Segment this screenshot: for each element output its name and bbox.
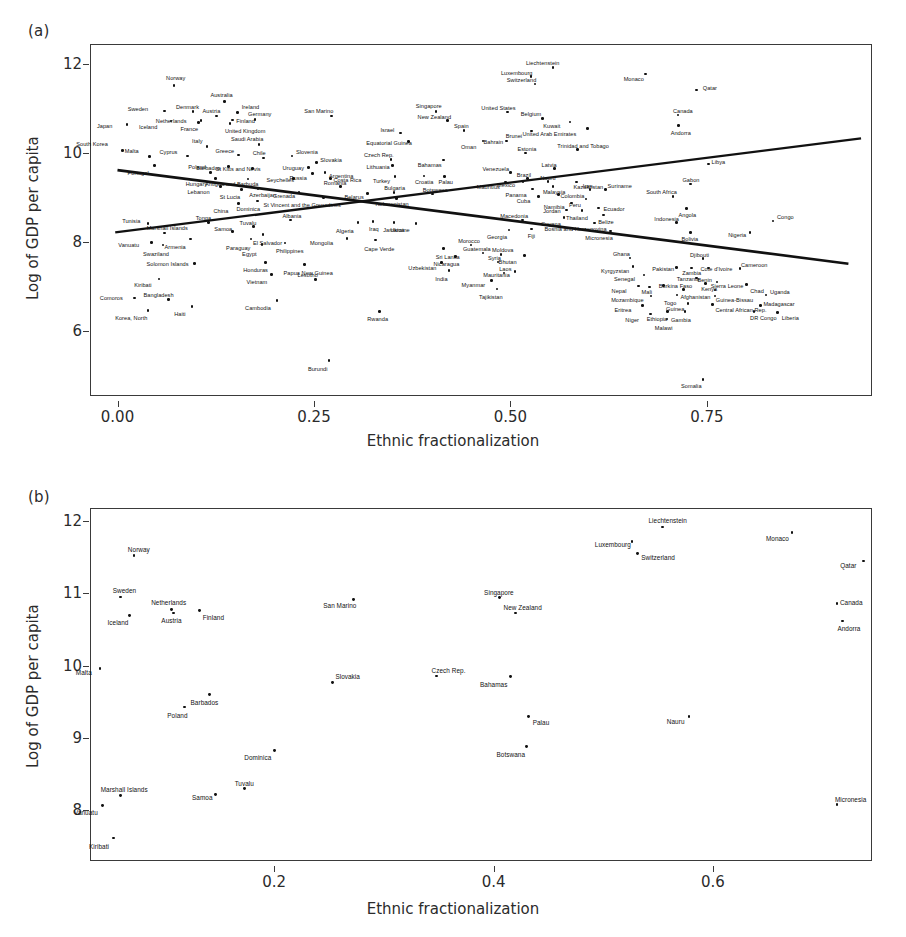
point-label: Marshall Islands bbox=[147, 226, 188, 232]
point-label: Germany bbox=[248, 112, 271, 118]
x-tick-mark bbox=[274, 866, 275, 872]
data-point bbox=[440, 261, 443, 264]
data-point bbox=[303, 263, 306, 266]
point-label: France bbox=[180, 127, 198, 133]
point-label: Norway bbox=[128, 547, 150, 553]
point-label: Congo bbox=[777, 215, 794, 221]
data-point bbox=[352, 598, 355, 601]
point-label: San Marino bbox=[323, 603, 356, 609]
point-label: Nicaragua bbox=[433, 262, 459, 268]
point-label: Tajikistan bbox=[479, 295, 503, 301]
x-tick-mark bbox=[494, 866, 495, 872]
data-point bbox=[537, 195, 540, 198]
point-label: Iraq bbox=[369, 227, 379, 233]
point-label: United Kingdom bbox=[225, 129, 266, 135]
point-label: Comoros bbox=[100, 296, 123, 302]
point-label: Cyprus bbox=[159, 150, 177, 156]
data-point bbox=[541, 117, 544, 120]
x-tick-0.50: 0.50 bbox=[480, 408, 540, 426]
point-label: Equatorial Guinea bbox=[366, 141, 412, 147]
data-point bbox=[557, 193, 560, 196]
point-label: Bosnia and Herzegovina bbox=[545, 227, 607, 233]
data-point bbox=[311, 172, 314, 175]
point-label: Kyrgyzstan bbox=[601, 269, 629, 275]
x-tick-0.2: 0.2 bbox=[244, 873, 304, 891]
x-tick-0.75: 0.75 bbox=[677, 408, 737, 426]
data-point bbox=[307, 166, 310, 169]
point-label: Denmark bbox=[176, 105, 199, 111]
data-point bbox=[597, 207, 600, 210]
data-point bbox=[776, 311, 779, 314]
point-label: Andorra bbox=[837, 626, 860, 632]
data-point bbox=[148, 155, 151, 158]
point-label: Cambodia bbox=[245, 306, 271, 312]
point-label: Suriname bbox=[608, 184, 632, 190]
panel-a-x-axis-label: Ethnic fractionalization bbox=[0, 432, 906, 450]
data-point bbox=[229, 122, 232, 125]
point-label: Monaco bbox=[766, 536, 789, 542]
point-label: Palau bbox=[438, 180, 453, 186]
data-point bbox=[395, 197, 398, 200]
point-label: Mauritania bbox=[483, 273, 510, 279]
point-label: Slovakia bbox=[335, 674, 360, 680]
point-label: Liechtenstein bbox=[526, 61, 560, 67]
point-label: Cote d'Ivoire bbox=[701, 267, 733, 273]
point-label: Senegal bbox=[614, 277, 635, 283]
point-label: Colombia bbox=[560, 194, 584, 200]
point-label: Armenia bbox=[165, 245, 186, 251]
x-tick-0.25: 0.25 bbox=[284, 408, 344, 426]
data-point bbox=[509, 675, 512, 678]
point-label: New Zealand bbox=[504, 605, 542, 611]
data-point bbox=[298, 191, 301, 194]
point-label: Italy bbox=[192, 139, 203, 145]
data-point bbox=[200, 119, 203, 122]
point-label: Australia bbox=[210, 93, 232, 99]
data-point bbox=[644, 73, 647, 76]
point-label: Liberia bbox=[782, 316, 799, 322]
point-label: Portugal bbox=[127, 171, 148, 177]
data-point bbox=[442, 159, 445, 162]
y-tick-12: 12 bbox=[36, 55, 82, 73]
point-label: Iceland bbox=[107, 620, 128, 626]
point-label: United Arab Emirates bbox=[522, 132, 576, 138]
point-label: Burundi bbox=[308, 367, 328, 373]
x-tick-mark bbox=[118, 401, 119, 407]
data-point bbox=[531, 188, 534, 191]
data-point bbox=[435, 110, 438, 113]
data-point bbox=[745, 283, 748, 286]
point-label: Tuvalu bbox=[235, 781, 254, 787]
point-label: Singapore bbox=[416, 104, 442, 110]
point-label: South Korea bbox=[76, 142, 108, 148]
point-label: Honduras bbox=[243, 268, 268, 274]
x-tick-0.00: 0.00 bbox=[88, 408, 148, 426]
data-point bbox=[443, 175, 446, 178]
point-label: Grenada bbox=[273, 194, 295, 200]
point-label: Cape Verde bbox=[364, 247, 394, 253]
data-point bbox=[498, 596, 501, 599]
data-point bbox=[240, 188, 243, 191]
point-label: Finland bbox=[236, 119, 255, 125]
point-label: Latvia bbox=[541, 163, 556, 169]
data-point bbox=[648, 286, 651, 289]
point-label: Swaziland bbox=[143, 252, 169, 258]
panel-b-x-axis-label: Ethnic fractionalization bbox=[0, 900, 906, 918]
y-tick-mark bbox=[83, 153, 89, 154]
point-label: San Marino bbox=[304, 109, 333, 115]
y-tick-12: 12 bbox=[36, 512, 82, 530]
point-label: Mexico bbox=[497, 183, 515, 189]
data-point bbox=[128, 614, 131, 617]
point-label: Bangladesh bbox=[144, 293, 174, 299]
x-tick-mark bbox=[713, 866, 714, 872]
data-point bbox=[759, 304, 762, 307]
point-label: Thailand bbox=[566, 216, 588, 222]
point-label: Ghana bbox=[613, 252, 630, 258]
data-point bbox=[711, 303, 714, 306]
point-label: India bbox=[435, 277, 447, 283]
point-label: Bahamas bbox=[418, 163, 442, 169]
point-label: Kuwait bbox=[543, 124, 560, 130]
point-label: Nigeria bbox=[728, 233, 746, 239]
point-label: Liechtenstein bbox=[649, 518, 687, 524]
point-label: Cuba bbox=[517, 199, 531, 205]
point-label: Malawi bbox=[655, 326, 673, 332]
point-label: Romania bbox=[324, 181, 347, 187]
